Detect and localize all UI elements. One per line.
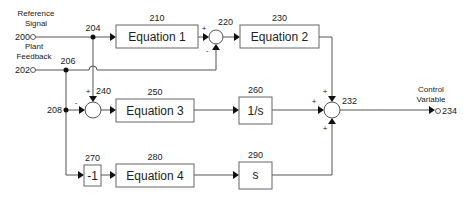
ref-234: 234: [442, 106, 457, 116]
arrow-into-220-left: [203, 33, 209, 41]
arrow-into-output: [429, 106, 435, 114]
ref-210: 210: [149, 13, 164, 23]
ref-208: 208: [47, 105, 62, 115]
sign-240-minus: -: [75, 98, 78, 107]
terminal-200: [31, 35, 36, 40]
terminal-202: [31, 68, 36, 73]
arrow-into-240-left: [79, 106, 85, 114]
arrow-into-integrator: [233, 106, 239, 114]
arrow-into-neg1: [78, 171, 84, 179]
ref-290: 290: [248, 150, 263, 160]
ref-270: 270: [85, 153, 100, 163]
reference-label-line2: Signal: [25, 19, 47, 28]
arrow-into-eq4: [110, 171, 116, 179]
arrow-into-240-top: [89, 96, 97, 102]
summer-240: [85, 102, 101, 118]
block-230-text: Equation 2: [251, 30, 309, 44]
feedback-label-line1: Plant: [25, 42, 44, 51]
ref-260: 260: [248, 85, 263, 95]
ref-280: 280: [147, 152, 162, 162]
sign-220-plus: +: [202, 24, 207, 33]
junction-206: [64, 68, 69, 73]
ref-200: 200: [15, 32, 30, 42]
ref-202: 202: [15, 65, 30, 75]
sign-240-plus: +: [86, 87, 91, 96]
sign-232-top: +: [323, 87, 328, 96]
sign-232-left: +: [312, 97, 317, 106]
block-250-text: Equation 3: [126, 104, 184, 118]
output-label-line1: Control: [418, 85, 444, 94]
arrow-into-220-bottom: [212, 44, 220, 50]
ref-232: 232: [342, 96, 357, 106]
ref-220: 220: [218, 17, 233, 27]
terminal-234: [436, 109, 441, 114]
wire-206-to-neg1: [66, 70, 80, 175]
arrow-into-232-top: [328, 96, 336, 102]
arrow-into-derivative: [233, 171, 239, 179]
block-270-text: -1: [87, 169, 98, 183]
ref-230: 230: [272, 13, 287, 23]
arrow-into-232-bottom: [328, 118, 336, 124]
arrow-into-232-left: [318, 106, 324, 114]
block-210-text: Equation 1: [128, 30, 186, 44]
sign-220-minus: -: [206, 46, 209, 55]
ref-240: 240: [96, 86, 111, 96]
ref-250: 250: [147, 87, 162, 97]
output-label-line2: Variable: [417, 95, 446, 104]
junction-204: [91, 35, 96, 40]
junction-208: [64, 108, 69, 113]
summer-232: [324, 102, 340, 118]
block-diagram: Equation 1 Equation 2 Equation 3 1/s -1 …: [0, 0, 473, 200]
reference-label-line1: Reference: [18, 9, 55, 18]
block-280-text: Equation 4: [126, 169, 184, 183]
arrow-into-eq2: [234, 33, 240, 41]
summer-220: [209, 30, 223, 44]
arrow-into-eq3: [110, 106, 116, 114]
sign-232-bottom: +: [323, 124, 328, 133]
feedback-label-line2: Feedback: [16, 52, 52, 61]
block-290-text: s: [253, 168, 259, 182]
arrow-into-eq1: [110, 33, 116, 41]
ref-204: 204: [85, 23, 100, 33]
block-260-text: 1/s: [247, 104, 263, 118]
ref-206: 206: [60, 56, 75, 66]
